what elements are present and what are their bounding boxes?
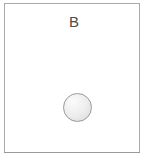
ball-circle xyxy=(63,93,92,122)
panel-label: B xyxy=(7,14,141,29)
panel-b-box: B xyxy=(4,3,140,153)
